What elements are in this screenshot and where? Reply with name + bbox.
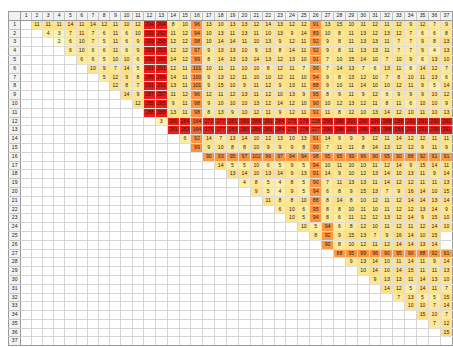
matrix-cell[interactable] — [345, 284, 357, 293]
matrix-cell[interactable] — [238, 214, 250, 223]
matrix-cell[interactable]: 9 — [357, 135, 369, 144]
row-header-2[interactable]: 2 — [9, 29, 21, 38]
matrix-cell[interactable]: 272 — [203, 117, 215, 126]
matrix-cell[interactable]: 6 — [99, 29, 110, 38]
matrix-cell[interactable]: 9 — [286, 170, 298, 179]
matrix-cell[interactable] — [238, 240, 250, 249]
matrix-cell[interactable]: 9 — [417, 214, 429, 223]
matrix-cell[interactable] — [143, 311, 155, 320]
matrix-cell[interactable] — [393, 337, 405, 346]
matrix-cell[interactable]: 14 — [65, 20, 76, 29]
matrix-cell[interactable] — [31, 91, 42, 100]
matrix-cell[interactable]: 12 — [428, 64, 440, 73]
matrix-cell[interactable]: 8 — [298, 143, 310, 152]
matrix-cell[interactable]: 90 — [322, 240, 334, 249]
matrix-cell[interactable] — [393, 311, 405, 320]
matrix-cell[interactable]: 6 — [417, 55, 429, 64]
matrix-cell[interactable] — [262, 337, 274, 346]
matrix-cell[interactable] — [43, 284, 54, 293]
column-header-11[interactable]: 11 — [132, 12, 143, 21]
column-header-4[interactable]: 4 — [54, 12, 65, 21]
matrix-cell[interactable] — [21, 143, 32, 152]
matrix-cell[interactable]: 296 — [333, 117, 345, 126]
matrix-cell[interactable]: 10 — [132, 29, 143, 38]
matrix-cell[interactable] — [238, 275, 250, 284]
matrix-cell[interactable] — [54, 143, 65, 152]
matrix-cell[interactable] — [369, 284, 381, 293]
matrix-cell[interactable] — [203, 223, 215, 232]
matrix-cell[interactable] — [215, 302, 227, 311]
matrix-cell[interactable]: 11 — [345, 29, 357, 38]
matrix-cell[interactable] — [298, 293, 310, 302]
matrix-cell[interactable] — [143, 205, 155, 214]
matrix-cell[interactable] — [203, 231, 215, 240]
matrix-cell[interactable] — [203, 311, 215, 320]
matrix-cell[interactable] — [357, 275, 369, 284]
matrix-cell[interactable] — [298, 284, 310, 293]
matrix-cell[interactable]: 7 — [322, 143, 334, 152]
matrix-cell[interactable]: 11 — [298, 108, 310, 117]
matrix-cell[interactable]: 8 — [322, 196, 334, 205]
matrix-cell[interactable]: 13 — [381, 64, 393, 73]
matrix-cell[interactable]: 15 — [333, 20, 345, 29]
matrix-cell[interactable] — [54, 337, 65, 346]
matrix-cell[interactable] — [143, 161, 155, 170]
matrix-cell[interactable] — [286, 293, 298, 302]
matrix-cell[interactable] — [31, 231, 42, 240]
matrix-cell[interactable]: 9 — [298, 91, 310, 100]
matrix-cell[interactable] — [238, 311, 250, 320]
matrix-cell[interactable] — [65, 143, 76, 152]
matrix-cell[interactable] — [357, 311, 369, 320]
matrix-cell[interactable]: 12 — [110, 73, 121, 82]
matrix-cell[interactable] — [87, 99, 98, 108]
matrix-cell[interactable] — [132, 223, 143, 232]
matrix-cell[interactable]: 10 — [238, 64, 250, 73]
matrix-cell[interactable] — [215, 231, 227, 240]
matrix-cell[interactable] — [381, 293, 393, 302]
matrix-cell[interactable] — [298, 249, 310, 258]
matrix-cell[interactable] — [99, 328, 110, 337]
matrix-cell[interactable] — [143, 223, 155, 232]
column-header-29[interactable]: 29 — [345, 12, 357, 21]
matrix-cell[interactable]: 7 — [393, 38, 405, 47]
row-header-23[interactable]: 23 — [9, 214, 21, 223]
matrix-cell[interactable] — [110, 311, 121, 320]
matrix-cell[interactable]: 14 — [393, 240, 405, 249]
matrix-cell[interactable] — [286, 223, 298, 232]
matrix-cell[interactable]: 14 — [322, 170, 334, 179]
matrix-cell[interactable]: 14 — [227, 38, 239, 47]
matrix-cell[interactable] — [99, 135, 110, 144]
matrix-cell[interactable] — [369, 293, 381, 302]
matrix-cell[interactable] — [31, 108, 42, 117]
matrix-cell[interactable] — [428, 337, 440, 346]
matrix-cell[interactable]: 96 — [357, 152, 369, 161]
matrix-cell[interactable]: 10 — [250, 38, 262, 47]
matrix-cell[interactable] — [43, 231, 54, 240]
matrix-cell[interactable]: 91 — [440, 152, 452, 161]
matrix-cell[interactable] — [155, 161, 167, 170]
matrix-cell[interactable]: 11 — [31, 20, 42, 29]
matrix-cell[interactable] — [143, 126, 155, 135]
matrix-cell[interactable]: 91 — [310, 55, 322, 64]
matrix-cell[interactable]: 9 — [345, 187, 357, 196]
matrix-cell[interactable]: 7 — [322, 55, 334, 64]
matrix-cell[interactable]: 10 — [333, 55, 345, 64]
matrix-cell[interactable]: 6 — [274, 205, 286, 214]
matrix-cell[interactable] — [262, 240, 274, 249]
matrix-cell[interactable] — [143, 214, 155, 223]
matrix-cell[interactable]: 14 — [333, 196, 345, 205]
matrix-cell[interactable]: 284 — [274, 117, 286, 126]
matrix-cell[interactable]: 2 — [54, 38, 65, 47]
column-header-32[interactable]: 32 — [381, 12, 393, 21]
column-header-33[interactable]: 33 — [393, 12, 405, 21]
matrix-cell[interactable]: 9 — [428, 170, 440, 179]
matrix-cell[interactable]: 12 — [286, 20, 298, 29]
matrix-cell[interactable] — [333, 267, 345, 276]
matrix-cell[interactable] — [227, 284, 239, 293]
matrix-cell[interactable] — [65, 284, 76, 293]
matrix-cell[interactable]: 13 — [322, 20, 334, 29]
matrix-cell[interactable]: 12 — [274, 73, 286, 82]
matrix-cell[interactable]: 9 — [322, 38, 334, 47]
matrix-cell[interactable]: 14 — [167, 55, 179, 64]
matrix-cell[interactable]: 12 — [393, 143, 405, 152]
